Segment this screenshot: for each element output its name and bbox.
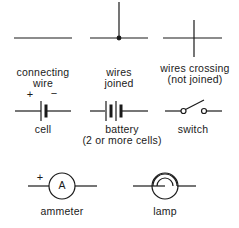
ammeter-a-glyph: A [56,180,68,191]
lamp-label-line1: lamp [140,206,190,217]
wires-joined-symbol [90,2,148,40]
connecting-wire-label-line2: wire [4,78,82,89]
ammeter-plus-sign: + [35,172,45,183]
wires-crossing-label-line2: (not joined) [154,74,236,85]
lamp-label: lamp [140,206,190,217]
wires-crossing-symbol [163,20,222,57]
cell-minus-sign: − [49,88,59,99]
cell-label: cell [13,124,73,135]
switch-label-line1: switch [163,124,223,135]
ammeter-label-line1: ammeter [27,206,97,217]
wires-crossing-label: wires crossing (not joined) [154,63,236,85]
battery-label: battery (2 or more cells) [72,124,172,146]
lamp-symbol [133,173,196,199]
wires-joined-label: wires joined [80,67,158,89]
circuit-symbols-diagram [0,0,239,228]
cell-label-line1: cell [13,124,73,135]
switch-symbol [165,100,222,114]
ammeter-label: ammeter [27,206,97,217]
battery-symbol [90,101,148,121]
cell-plus-sign: + [25,89,35,100]
connecting-wire-label: connecting wire [4,67,82,89]
cell-symbol [15,101,71,121]
battery-label-line2: (2 or more cells) [72,135,172,146]
wires-joined-label-line2: joined [80,78,158,89]
switch-label: switch [163,124,223,135]
